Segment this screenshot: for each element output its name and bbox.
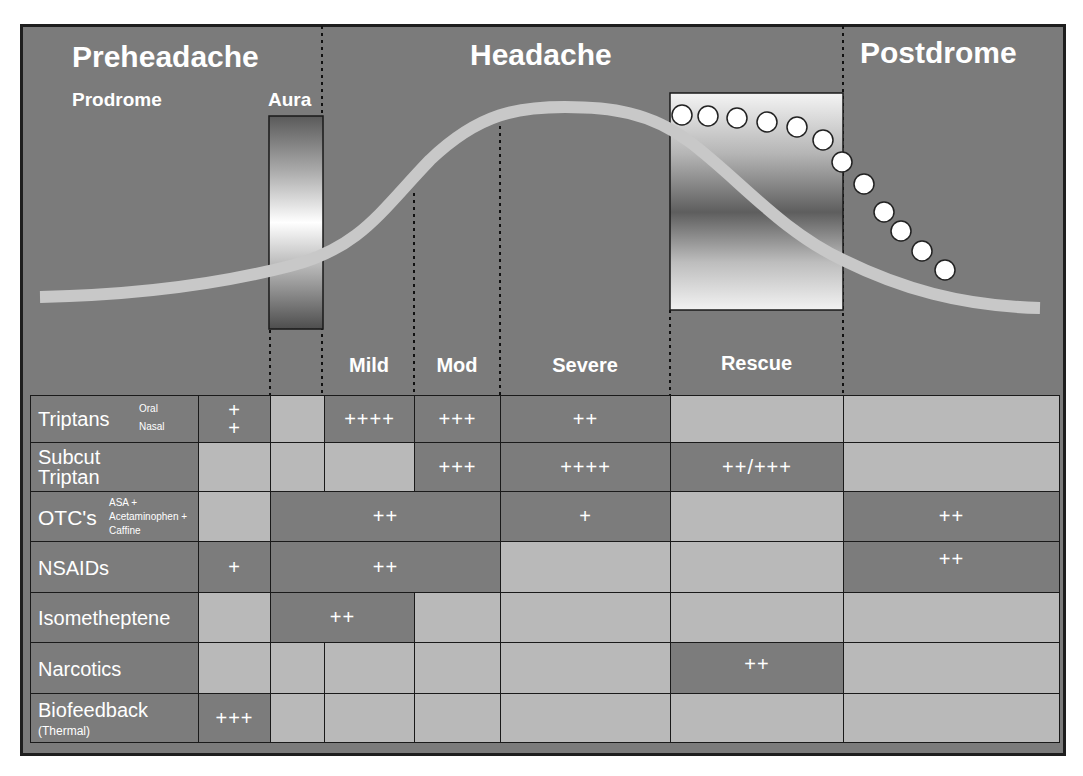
cell-narcotics-mild bbox=[324, 642, 415, 694]
cell-biofeedback-mod bbox=[414, 693, 501, 743]
cell-triptans-severe: ++ bbox=[500, 395, 671, 443]
dose-circle bbox=[912, 241, 932, 261]
cell-subcut-prodrome bbox=[198, 442, 271, 492]
dose-circle bbox=[874, 202, 894, 222]
dose-circle bbox=[832, 152, 852, 172]
cell-isometheptene-severe bbox=[500, 592, 671, 643]
cell-subcut-mild bbox=[324, 442, 415, 492]
cell-biofeedback-prodrome: +++ bbox=[198, 693, 271, 743]
cell-narcotics-prodrome bbox=[198, 642, 271, 694]
cell-isometheptene-rescue bbox=[670, 592, 844, 643]
cell-nsaids-postdrome: ++ bbox=[843, 541, 1060, 593]
dose-circle bbox=[813, 130, 833, 150]
cell-isometheptene-postdrome bbox=[843, 592, 1060, 643]
cell-otcs-severe: + bbox=[500, 491, 671, 542]
cell-otcs-aura-to-mod: ++ bbox=[270, 491, 501, 542]
column-header-severe: Severe bbox=[500, 355, 670, 375]
cell-narcotics-rescue: ++ bbox=[670, 642, 844, 694]
cell-triptans-mod: +++ bbox=[414, 395, 501, 443]
subphase-aura: Aura bbox=[268, 90, 311, 109]
row-label-biofeedback: Biofeedback (Thermal) bbox=[30, 693, 199, 743]
cell-subcut-postdrome bbox=[843, 442, 1060, 492]
cell-narcotics-mod bbox=[414, 642, 501, 694]
phase-title-postdrome: Postdrome bbox=[860, 38, 1017, 68]
cell-subcut-rescue: ++/+++ bbox=[670, 442, 844, 492]
dose-circle bbox=[757, 112, 777, 132]
cell-biofeedback-rescue bbox=[670, 693, 844, 743]
cell-otcs-rescue bbox=[670, 491, 844, 542]
cell-nsaids-aura-to-mod: ++ bbox=[270, 541, 501, 593]
dose-circle bbox=[891, 221, 911, 241]
cell-isometheptene-aura-to-mild: ++ bbox=[270, 592, 415, 643]
dose-circle bbox=[787, 117, 807, 137]
row-label-triptans: Triptans Oral Nasal bbox=[30, 395, 199, 443]
phase-title-headache: Headache bbox=[470, 40, 612, 70]
dose-circle bbox=[698, 106, 718, 126]
cell-isometheptene-prodrome bbox=[198, 592, 271, 643]
cell-triptans-postdrome bbox=[843, 395, 1060, 443]
dose-circle bbox=[727, 108, 747, 128]
phase-title-preheadache: Preheadache bbox=[72, 42, 259, 72]
cell-otcs-postdrome: ++ bbox=[843, 491, 1060, 542]
cell-nsaids-rescue bbox=[670, 541, 844, 593]
dose-circle bbox=[672, 105, 692, 125]
subphase-prodrome: Prodrome bbox=[72, 90, 162, 109]
cell-subcut-mod: +++ bbox=[414, 442, 501, 492]
row-label-isometheptene: Isometheptene bbox=[30, 592, 199, 643]
row-label-otcs: OTC's ASA + Acetaminophen + Caffine bbox=[30, 491, 199, 542]
cell-biofeedback-severe bbox=[500, 693, 671, 743]
cell-triptans-rescue bbox=[670, 395, 844, 443]
cell-narcotics-postdrome bbox=[843, 642, 1060, 694]
column-header-mild: Mild bbox=[324, 355, 414, 375]
cell-otcs-prodrome bbox=[198, 491, 271, 542]
row-label-subcut-triptan: Subcut Triptan bbox=[30, 442, 199, 492]
cell-triptans-mild: ++++ bbox=[324, 395, 415, 443]
cell-biofeedback-postdrome bbox=[843, 693, 1060, 743]
cell-subcut-aura bbox=[270, 442, 325, 492]
cell-narcotics-severe bbox=[500, 642, 671, 694]
cell-subcut-severe: ++++ bbox=[500, 442, 671, 492]
dose-circle bbox=[935, 260, 955, 280]
cell-triptans-aura bbox=[270, 395, 325, 443]
row-label-narcotics: Narcotics bbox=[30, 642, 199, 694]
column-header-rescue: Rescue bbox=[670, 353, 843, 373]
aura-gradient-box bbox=[269, 116, 323, 329]
row-label-nsaids: NSAIDs bbox=[30, 541, 199, 593]
cell-narcotics-aura bbox=[270, 642, 325, 694]
cell-nsaids-severe bbox=[500, 541, 671, 593]
column-header-mod: Mod bbox=[414, 355, 500, 375]
cell-biofeedback-mild bbox=[324, 693, 415, 743]
cell-isometheptene-mod bbox=[414, 592, 501, 643]
cell-biofeedback-aura bbox=[270, 693, 325, 743]
cell-triptans-prodrome: ++ bbox=[198, 395, 271, 443]
cell-nsaids-prodrome: + bbox=[198, 541, 271, 593]
dose-circle bbox=[854, 174, 874, 194]
